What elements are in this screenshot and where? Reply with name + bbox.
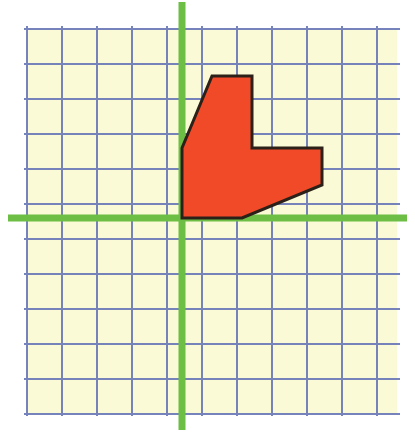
coordinate-grid-graphic: Coordinate grid with shaded polygon Pale… [0,0,415,432]
graph-figure: Coordinate grid with shaded polygon Pale… [0,0,415,432]
